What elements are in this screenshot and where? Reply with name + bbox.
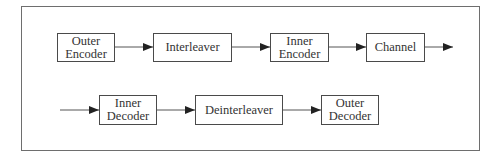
block-label-line: Encoder (65, 48, 107, 61)
block-label-line: Inner (279, 35, 321, 48)
block-inner-encoder: Inner Encoder (270, 33, 329, 62)
block-inner-decoder: Inner Decoder (99, 95, 157, 125)
block-label-line: Channel (375, 41, 417, 54)
block-label-line: Decoder (329, 110, 371, 123)
block-deinterleaver: Deinterleaver (195, 95, 283, 125)
block-interleaver: Interleaver (153, 33, 232, 62)
block-label-line: Deinterleaver (205, 104, 273, 117)
block-label-line: Encoder (279, 48, 321, 61)
block-outer-encoder: Outer Encoder (57, 33, 115, 62)
block-label-line: Decoder (107, 110, 149, 123)
block-label-line: Interleaver (165, 41, 219, 54)
connector-arrows (0, 0, 500, 161)
block-outer-decoder: Outer Decoder (321, 95, 379, 125)
block-label-line: Outer (65, 35, 107, 48)
block-channel: Channel (366, 33, 425, 62)
